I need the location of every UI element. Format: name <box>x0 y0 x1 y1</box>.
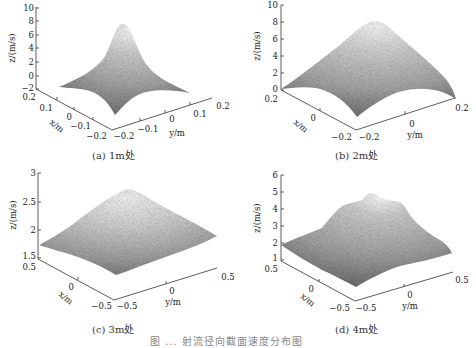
xtick-c-2: −0.5 <box>91 301 112 311</box>
caption-c: (c) 3m处 <box>92 321 134 336</box>
ytick-a-4: 0.2 <box>216 101 230 111</box>
xtick-c-1: 0 <box>69 282 74 292</box>
ztick-c-3: 1.5 <box>22 251 36 261</box>
caption-a: (a) 1m处 <box>92 147 135 162</box>
surface-c <box>39 189 217 275</box>
xtick-b-0: 0.2 <box>264 94 278 104</box>
xtick-c-0: 0.5 <box>22 262 36 272</box>
surface-a <box>59 24 190 115</box>
zlabel-b: z/(m/s) <box>252 31 262 60</box>
ztick-b-4: 2 <box>273 68 278 78</box>
xtick-d-1: 0 <box>309 284 314 294</box>
ztick-d-4: 2 <box>273 238 278 248</box>
ztick-a-3: 4 <box>29 43 34 53</box>
ztick-b-0: 10 <box>267 0 278 10</box>
ytick-d-0: −0.5 <box>356 303 377 313</box>
ztick-a-2: 6 <box>29 30 34 40</box>
panel-a: 10 8 6 4 2 0 −2 0.2 0.1 0 −0.1 −0.2 −0.2… <box>7 3 230 141</box>
xtick-a-1: 0.1 <box>39 103 53 113</box>
ztick-c-1: 2.5 <box>22 197 36 207</box>
ytick-a-3: 0.1 <box>193 109 207 119</box>
xtick-b-2: −0.2 <box>331 132 352 142</box>
caption-d: (d) 4m处 <box>335 321 378 336</box>
xtick-b-1: 0 <box>311 113 316 123</box>
ztick-a-0: 10 <box>23 3 34 13</box>
panel-c: 3 2.5 2 1.5 0.5 0 −0.5 −0.5 0 0.5 y/m z/… <box>8 168 235 311</box>
xtick-a-0: 0.2 <box>22 92 36 102</box>
ytick-c-0: −0.5 <box>117 301 138 311</box>
ytick-c-1: 0 <box>169 286 174 296</box>
zlabel-d: z/(m/s) <box>252 203 262 232</box>
ytick-d-2: 0.5 <box>455 275 469 285</box>
ytick-a-1: −0.1 <box>138 124 159 134</box>
ytick-a-0: −0.2 <box>114 131 135 141</box>
xtick-d-0: 0.5 <box>264 264 278 274</box>
xlabel-d: x/m <box>299 291 317 309</box>
ztick-b-5: 0 <box>273 84 278 94</box>
surface-d <box>281 193 452 287</box>
xlabel-b: x/m <box>292 117 310 135</box>
ylabel-a: y/m <box>168 128 185 138</box>
panel-d: 6 5 4 3 2 1 0.5 0 −0.5 −0.5 0 0.5 y/m z/… <box>252 170 469 313</box>
ztick-d-5: 1 <box>273 253 278 263</box>
panel-b: 10 8 6 4 2 0 0.2 0 −0.2 −0.2 0 0.2 y/m z… <box>252 0 469 142</box>
xtick-d-2: −0.5 <box>329 303 350 313</box>
ztick-b-2: 6 <box>273 34 278 44</box>
xtick-a-4: −0.2 <box>86 131 107 141</box>
ztick-a-4: 2 <box>29 57 34 67</box>
ztick-a-5: 0 <box>29 71 34 81</box>
ztick-c-2: 2 <box>31 225 36 235</box>
caption-b: (b) 2m处 <box>335 147 378 162</box>
figure-caption: 图 ... 射流径向截面速度分布图 <box>150 333 303 348</box>
ylabel-b: y/m <box>406 130 423 140</box>
ytick-d-1: 0 <box>407 290 412 300</box>
ztick-b-3: 4 <box>273 51 278 61</box>
ztick-b-1: 8 <box>273 17 278 27</box>
ytick-b-1: 0 <box>409 119 414 129</box>
ytick-b-0: −0.2 <box>359 132 380 142</box>
ytick-b-2: 0.2 <box>455 103 469 113</box>
zlabel-a: z/(m/s) <box>7 33 17 62</box>
zlabel-c: z/(m/s) <box>8 200 18 229</box>
ytick-c-2: 0.5 <box>221 272 235 282</box>
xtick-a-3: −0.1 <box>70 121 91 131</box>
ylabel-c: y/m <box>164 297 181 307</box>
ztick-d-2: 4 <box>273 204 278 214</box>
ztick-d-3: 3 <box>273 221 278 231</box>
xlabel-a: x/m <box>48 117 66 135</box>
ztick-a-1: 8 <box>29 16 34 26</box>
ytick-a-2: 0 <box>169 114 174 124</box>
ztick-c-0: 3 <box>31 168 36 178</box>
ztick-d-1: 5 <box>273 187 278 197</box>
ztick-d-0: 6 <box>273 170 278 180</box>
ylabel-d: y/m <box>401 301 418 311</box>
surface-b <box>281 21 456 117</box>
